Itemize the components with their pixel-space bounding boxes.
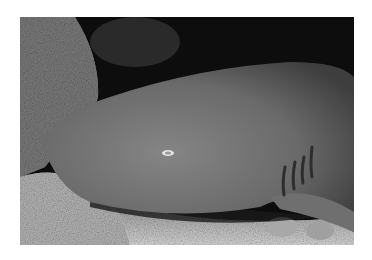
upper-rock	[90, 17, 180, 67]
shark-scene	[20, 17, 354, 245]
photo-nurse-shark: Nurse shark resting on sandy sea floor b…	[20, 17, 354, 245]
small-rock	[306, 222, 334, 240]
shark-pupil	[165, 152, 171, 155]
